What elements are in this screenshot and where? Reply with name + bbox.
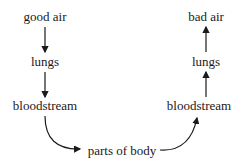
node-good-air: good air xyxy=(24,9,67,24)
node-bad-air: bad air xyxy=(188,9,224,24)
arrows-layer xyxy=(0,0,247,166)
node-lungs-right: lungs xyxy=(192,54,220,69)
respiration-flow-diagram: good air lungs bloodstream parts of body… xyxy=(0,0,247,166)
node-bloodstream-right: bloodstream xyxy=(167,98,231,113)
node-bloodstream-left: bloodstream xyxy=(13,98,77,113)
arrow-bloodstream-to-body xyxy=(45,116,80,149)
arrow-body-to-bloodstream xyxy=(160,118,197,150)
node-lungs-left: lungs xyxy=(31,54,59,69)
node-parts-of-body: parts of body xyxy=(88,143,157,158)
